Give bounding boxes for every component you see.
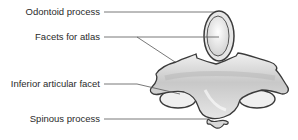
axis-vertebra-diagram: Odontoid process Facets for atlas Inferi… bbox=[0, 0, 298, 140]
label-facets-for-atlas: Facets for atlas bbox=[35, 31, 100, 42]
label-spinous-process: Spinous process bbox=[30, 113, 100, 124]
leader-facets-atlas bbox=[104, 37, 175, 62]
odontoid-process bbox=[204, 11, 234, 61]
spinous-process bbox=[207, 119, 228, 128]
label-inferior-articular-facet: Inferior articular facet bbox=[11, 78, 100, 89]
label-odontoid-process: Odontoid process bbox=[26, 6, 100, 17]
